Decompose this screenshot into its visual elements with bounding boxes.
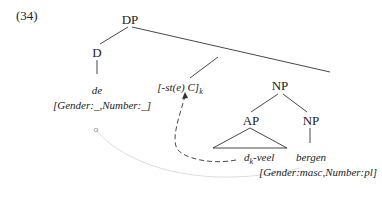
node-d: D xyxy=(92,45,101,60)
d-features: [Gender:_,Number:_] xyxy=(53,99,151,111)
arrowhead-icon xyxy=(182,92,188,99)
node-np-upper: NP xyxy=(272,78,289,93)
syntax-tree-diagram: (34) DP D de [Gender:_,Number:_] [-st(e)… xyxy=(0,0,382,202)
noun-features: [Gender:masc,Number:pl] xyxy=(259,166,377,178)
ap-triangle xyxy=(213,128,287,148)
word-bergen: bergen xyxy=(296,151,327,163)
node-np-lower: NP xyxy=(303,113,320,128)
movement-arrow-dashed xyxy=(175,96,236,162)
node-ap: AP xyxy=(243,113,260,128)
node-dp: DP xyxy=(122,12,139,27)
tree-branches xyxy=(97,27,330,148)
ap-word: dk-veel xyxy=(244,151,274,166)
example-number: (34) xyxy=(16,8,38,23)
word-de: de xyxy=(92,84,103,96)
suffix-node: [-st(e) C]k xyxy=(157,81,203,96)
